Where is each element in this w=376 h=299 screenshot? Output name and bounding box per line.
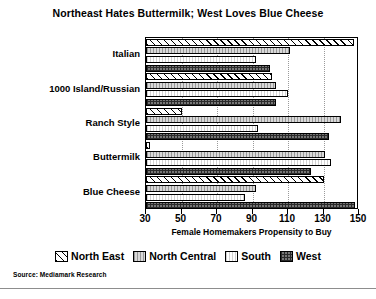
legend-swatch-icon <box>280 251 293 262</box>
category-axis-labels: Italian1000 Island/RussianRanch StyleBut… <box>0 37 143 209</box>
bar-group <box>146 39 357 72</box>
bar-north-east-blue-cheese <box>146 176 324 183</box>
legend-label: North Central <box>149 250 216 262</box>
bar-west-buttermilk <box>146 168 311 175</box>
plot-area <box>145 37 358 209</box>
legend-item-south[interactable]: South <box>225 250 271 262</box>
legend-item-west[interactable]: West <box>280 250 321 262</box>
category-label: 1000 Island/Russian <box>49 83 140 94</box>
bar-north-east-1000-island-russian <box>146 73 272 80</box>
category-label: Blue Cheese <box>83 186 140 197</box>
bar-north-east-ranch-style <box>146 108 182 115</box>
bar-south-italian <box>146 56 256 63</box>
x-tick-label: 50 <box>175 213 186 224</box>
bar-group <box>146 176 357 209</box>
source-note: Source: Mediamark Research <box>13 271 107 278</box>
legend-item-north-east[interactable]: North East <box>55 250 124 262</box>
bottom-divider <box>0 288 376 289</box>
x-tick-label: 70 <box>210 213 221 224</box>
category-label: Buttermilk <box>93 151 140 162</box>
bar-north-central-blue-cheese <box>146 185 256 192</box>
legend-item-north-central[interactable]: North Central <box>133 250 216 262</box>
x-tick-label: 30 <box>139 213 150 224</box>
bar-north-central-italian <box>146 47 290 54</box>
category-label: Italian <box>113 48 140 59</box>
bar-south-buttermilk <box>146 159 331 166</box>
bar-north-central-buttermilk <box>146 151 325 158</box>
x-axis-tick-labels: 30507090110130150 <box>0 213 376 227</box>
category-label: Ranch Style <box>86 117 140 128</box>
bars-layer <box>146 38 357 208</box>
bar-south-blue-cheese <box>146 194 245 201</box>
legend-label: West <box>296 250 321 262</box>
bar-north-east-buttermilk <box>146 142 150 149</box>
bar-north-central-ranch-style <box>146 116 341 123</box>
x-tick-label: 150 <box>350 213 367 224</box>
bar-north-east-italian <box>146 39 354 46</box>
bar-south-1000-island-russian <box>146 90 288 97</box>
bar-group <box>146 108 357 141</box>
bar-group <box>146 142 357 175</box>
x-tick-label: 130 <box>314 213 331 224</box>
x-axis-title: Female Homemakers Propensity to Buy <box>145 227 358 237</box>
chart-title: Northeast Hates Buttermilk; West Loves B… <box>0 7 376 19</box>
bar-west-1000-island-russian <box>146 99 276 106</box>
bar-south-ranch-style <box>146 125 258 132</box>
x-tick-label: 110 <box>279 213 295 224</box>
bar-north-central-1000-island-russian <box>146 82 276 89</box>
chart-container: Northeast Hates Buttermilk; West Loves B… <box>0 0 376 299</box>
legend-swatch-icon <box>133 251 146 262</box>
bar-group <box>146 73 357 106</box>
bar-west-ranch-style <box>146 133 329 140</box>
x-tick-label: 90 <box>246 213 257 224</box>
bar-west-italian <box>146 65 270 72</box>
legend-swatch-icon <box>55 251 68 262</box>
legend-swatch-icon <box>225 251 238 262</box>
legend-label: North East <box>71 250 124 262</box>
chart-legend: North EastNorth CentralSouthWest <box>0 250 376 262</box>
legend-label: South <box>241 250 271 262</box>
